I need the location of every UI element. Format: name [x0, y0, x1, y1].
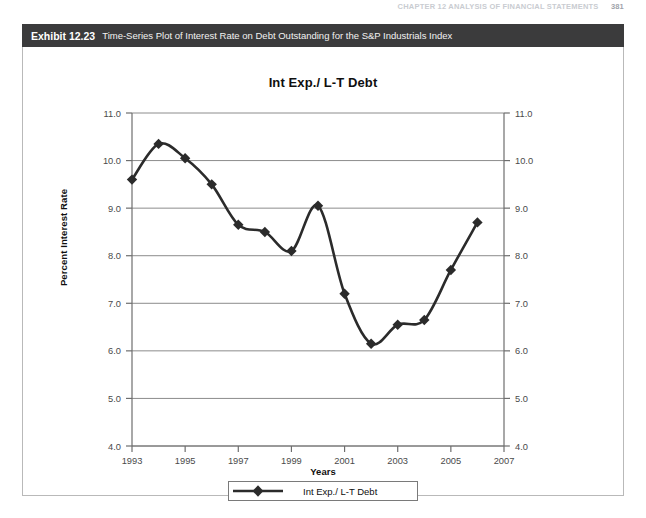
y-tick-label-left: 8.0 — [108, 251, 121, 261]
x-ticks: 19931995199719992001200320052007 — [122, 446, 515, 466]
page-number: 381 — [611, 2, 624, 11]
x-axis-label: Years — [23, 466, 623, 477]
exhibit-body: Int Exp./ L-T Debt 199319951997199920012… — [22, 47, 624, 496]
x-tick-label: 1999 — [281, 456, 302, 466]
running-head: CHAPTER 12 ANALYSIS OF FINANCIAL STATEME… — [0, 2, 646, 14]
y-tick-label-right: 6.0 — [515, 346, 528, 356]
x-tick-label: 1993 — [122, 456, 143, 466]
series-line — [132, 143, 477, 344]
y-tick-label-left: 5.0 — [108, 394, 121, 404]
y-tick-label-left: 7.0 — [108, 299, 121, 309]
data-point-marker — [472, 217, 482, 227]
y-tick-label-right: 8.0 — [515, 251, 528, 261]
x-tick-label: 2003 — [387, 456, 408, 466]
running-head-text: CHAPTER 12 ANALYSIS OF FINANCIAL STATEME… — [398, 2, 599, 11]
y-tick-label-left: 6.0 — [108, 346, 121, 356]
y-tick-label-right: 5.0 — [515, 394, 528, 404]
y-tick-label-right: 11.0 — [515, 109, 532, 119]
exhibit-caption: Time-Series Plot of Interest Rate on Deb… — [102, 30, 452, 41]
y-tick-label-left: 9.0 — [108, 204, 121, 214]
series-markers — [127, 139, 483, 349]
y-tick-label-right: 4.0 — [515, 442, 528, 452]
y-tick-label-right: 9.0 — [515, 204, 528, 214]
exhibit-number: Exhibit 12.23 — [31, 30, 95, 42]
y-tick-label-right: 7.0 — [515, 299, 528, 309]
data-point-marker — [446, 265, 456, 275]
diamond-marker-icon — [253, 485, 264, 497]
x-tick-label: 2007 — [494, 456, 515, 466]
y-tick-label-left: 11.0 — [104, 109, 121, 119]
x-tick-label: 1995 — [175, 456, 196, 466]
y-tick-label-left: 10.0 — [103, 156, 121, 166]
axis-frame — [132, 113, 504, 446]
data-point-marker — [339, 289, 349, 299]
y-tick-label-left: 4.0 — [108, 442, 121, 452]
y-axis-label: Percent Interest Rate — [58, 168, 69, 308]
gridlines — [132, 113, 504, 446]
y-ticks-right: 4.05.06.07.08.09.010.011.0 — [504, 109, 533, 452]
x-tick-label: 2001 — [334, 456, 355, 466]
plot-svg: 19931995199719992001200320052007 4.05.06… — [23, 47, 623, 494]
exhibit-header: Exhibit 12.23 Time-Series Plot of Intere… — [22, 24, 624, 47]
legend-marker-sample — [229, 483, 287, 499]
exhibit-container: Exhibit 12.23 Time-Series Plot of Intere… — [22, 24, 624, 496]
legend-label: Int Exp./ L-T Debt — [303, 486, 377, 497]
y-tick-label-right: 10.0 — [515, 156, 533, 166]
y-ticks-left: 4.05.06.07.08.09.010.011.0 — [103, 109, 132, 452]
chart: Int Exp./ L-T Debt 199319951997199920012… — [23, 47, 623, 494]
x-tick-label: 1997 — [228, 456, 249, 466]
chart-legend: Int Exp./ L-T Debt — [228, 481, 418, 501]
x-tick-label: 2005 — [441, 456, 462, 466]
